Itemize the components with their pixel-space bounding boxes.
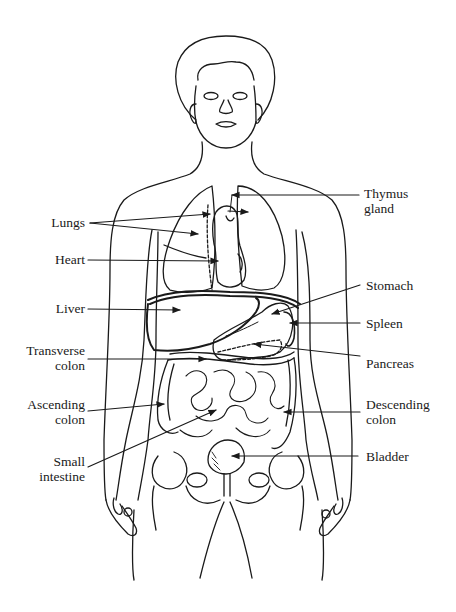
- label-spleen: Spleen: [366, 316, 403, 331]
- label-pancreas: Pancreas: [366, 356, 414, 371]
- label-lungs: Lungs: [30, 215, 85, 230]
- label-small-intestine: Small intestine: [10, 454, 85, 484]
- label-bladder: Bladder: [366, 449, 409, 464]
- label-stomach: Stomach: [366, 278, 413, 293]
- label-ascending-colon: Ascending colon: [10, 397, 85, 427]
- head: [176, 36, 275, 148]
- colon: [157, 352, 296, 448]
- liver: [147, 298, 259, 351]
- anatomy-diagram: Lungs Heart Liver Transverse colon Ascen…: [0, 0, 456, 612]
- label-transverse-colon: Transverse colon: [10, 343, 85, 373]
- label-liver: Liver: [30, 301, 85, 316]
- small-intestine: [180, 370, 284, 437]
- right-eye: [233, 93, 247, 100]
- label-heart: Heart: [30, 252, 85, 267]
- bladder: [208, 440, 244, 496]
- label-thymus-gland: Thymus gland: [364, 186, 408, 216]
- pancreas: [218, 340, 282, 360]
- diaphragm: [148, 291, 300, 308]
- pelvis: [152, 452, 304, 530]
- hands: [106, 498, 350, 536]
- label-descending-colon: Descending colon: [366, 397, 430, 427]
- left-eye: [204, 93, 218, 100]
- lungs: [163, 186, 285, 292]
